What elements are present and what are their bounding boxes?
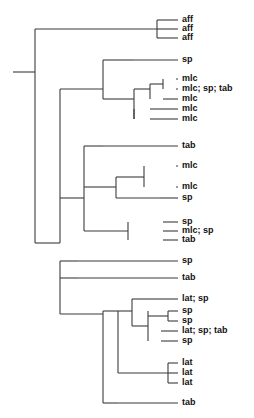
phylogenetic-tree-figure: affaffaffspmlcmlc; sp; tabmlcmlcmlctabml… xyxy=(0,0,254,418)
tip-label-t8: mlc xyxy=(182,103,198,113)
tip-label-t27: tab xyxy=(182,397,196,407)
tip-label-t4: sp xyxy=(182,54,193,64)
tip-layer: affaffaffspmlcmlc; sp; tabmlcmlcmlctabml… xyxy=(182,14,233,407)
tip-label-t17: sp xyxy=(182,255,193,265)
tip-label-t10: tab xyxy=(182,140,196,150)
branch-layer xyxy=(13,20,178,403)
tip-label-t16: tab xyxy=(182,234,196,244)
tip-label-t3: aff xyxy=(182,32,194,42)
tip-label-t11: mlc xyxy=(182,160,198,170)
tip-label-t9: mlc xyxy=(182,113,198,123)
cladogram-canvas: affaffaffspmlcmlc; sp; tabmlcmlcmlctabml… xyxy=(0,0,254,418)
tip-label-t6: mlc; sp; tab xyxy=(182,83,233,93)
tip-label-t7: mlc xyxy=(182,93,198,103)
tip-label-t19: lat; sp xyxy=(182,293,209,303)
tip-label-t5: mlc xyxy=(182,73,198,83)
tip-label-t12: mlc xyxy=(182,181,198,191)
tip-label-t18: tab xyxy=(182,272,196,282)
tip-label-t13: sp xyxy=(182,192,193,202)
tip-label-t23: sp xyxy=(182,335,193,345)
tip-label-t22: lat; sp; tab xyxy=(182,325,228,335)
tip-label-t21: sp xyxy=(182,315,193,325)
tip-label-t24: lat xyxy=(182,357,193,367)
tip-label-t26: lat xyxy=(182,377,193,387)
tip-label-t25: lat xyxy=(182,367,193,377)
tip-label-t20: sp xyxy=(182,305,193,315)
